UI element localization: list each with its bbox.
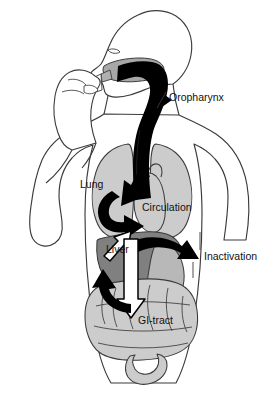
label-gi-tract: GI-tract: [138, 314, 173, 326]
anatomy-diagram: Oropharynx Lung Circulation Liver Inacti…: [0, 0, 273, 400]
label-inactivation: Inactivation: [204, 250, 257, 262]
label-lung: Lung: [80, 178, 104, 190]
label-oropharynx: Oropharynx: [169, 91, 225, 103]
figure-container: Oropharynx Lung Circulation Liver Inacti…: [0, 0, 273, 400]
label-liver: Liver: [106, 243, 129, 255]
label-circulation: Circulation: [142, 201, 192, 213]
